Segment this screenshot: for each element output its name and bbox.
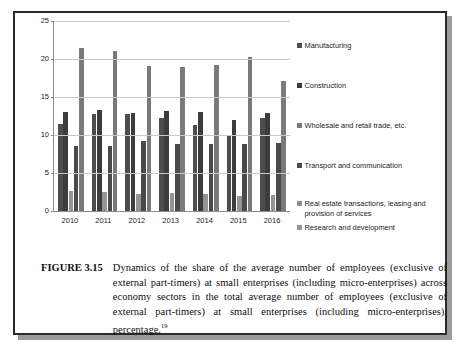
legend-item-6[interactable]: Research and development <box>297 223 433 233</box>
y-tick-mark-0 <box>51 211 54 212</box>
bar <box>92 114 97 211</box>
bar <box>63 112 68 211</box>
x-axis-tick-2010: 2010 <box>62 214 79 230</box>
y-tick-mark-5 <box>51 173 54 174</box>
chart-area: 0510152025 2010201120122013201420152016 … <box>29 21 433 253</box>
gridline-15 <box>54 97 290 98</box>
legend-label: Manufacturing <box>305 41 352 51</box>
legend-swatch-icon <box>297 225 302 230</box>
legend-label: Construction <box>305 81 347 91</box>
y-tick-mark-10 <box>51 135 54 136</box>
legend-swatch-icon <box>297 201 302 206</box>
plot-wrapper: 0510152025 2010201120122013201420152016 <box>29 21 291 253</box>
bar <box>58 124 63 211</box>
bar <box>164 111 169 211</box>
y-tick-mark-15 <box>51 97 54 98</box>
bar <box>193 125 198 211</box>
legend-item-4[interactable]: Transport and communication <box>297 161 433 171</box>
caption-footnote-marker: 19 <box>161 322 168 329</box>
x-axis-tick-2016: 2016 <box>264 214 281 230</box>
bar <box>159 118 164 211</box>
figure-caption-text: Dynamics of the share of the average num… <box>113 261 447 337</box>
y-axis-tick-labels: 0510152025 <box>29 21 51 217</box>
bar <box>198 112 203 211</box>
bar <box>108 146 113 211</box>
bar <box>237 196 242 211</box>
legend-swatch-icon <box>297 163 302 168</box>
bar <box>180 67 185 211</box>
legend-label: Research and development <box>305 223 395 233</box>
figure-page: 0510152025 2010201120122013201420152016 … <box>0 0 462 349</box>
legend-swatch-icon <box>297 83 302 88</box>
bar <box>265 113 270 211</box>
x-axis-tick-2013: 2013 <box>162 214 179 230</box>
bar <box>113 51 118 211</box>
y-axis-tick-25: 25 <box>41 17 49 25</box>
legend-label: Real estate transactions, leasing and pr… <box>305 199 434 218</box>
bar <box>147 66 152 211</box>
y-tick-mark-20 <box>51 59 54 60</box>
legend-item-2[interactable]: Construction <box>297 81 433 91</box>
plot-canvas <box>53 21 290 212</box>
bar <box>214 65 219 211</box>
bar <box>131 113 136 211</box>
y-axis-tick-15: 15 <box>41 93 49 101</box>
legend-swatch-icon <box>297 123 302 128</box>
y-axis-tick-0: 0 <box>45 207 49 215</box>
bar <box>79 48 84 211</box>
legend-label: Transport and communication <box>305 161 403 171</box>
legend-item-3[interactable]: Wholesale and retail trade, etc. <box>297 121 433 131</box>
y-axis-tick-10: 10 <box>41 131 49 139</box>
bar <box>74 146 79 211</box>
figure-number-label: FIGURE 3.15 <box>41 261 103 276</box>
bar-group-2011 <box>92 21 118 211</box>
bar-groups <box>54 21 290 211</box>
x-axis-tick-2011: 2011 <box>95 214 111 230</box>
x-axis-tick-labels: 2010201120122013201420152016 <box>53 214 289 230</box>
legend-item-1[interactable]: Manufacturing <box>297 41 433 51</box>
bar <box>97 110 102 211</box>
chart-legend: ManufacturingConstructionWholesale and r… <box>297 27 433 227</box>
bar <box>242 144 247 211</box>
bar <box>141 141 146 211</box>
bar <box>125 114 130 211</box>
figure-caption: FIGURE 3.15 Dynamics of the share of the… <box>41 261 447 337</box>
bar <box>136 194 141 211</box>
figure-frame: 0510152025 2010201120122013201420152016 … <box>13 11 447 335</box>
bar <box>102 192 107 211</box>
y-axis-tick-5: 5 <box>45 169 49 177</box>
legend-label: Wholesale and retail trade, etc. <box>305 121 407 131</box>
x-axis-tick-2015: 2015 <box>230 214 247 230</box>
bar <box>260 118 265 211</box>
gridline-5 <box>54 173 290 174</box>
y-axis-tick-20: 20 <box>41 55 49 63</box>
bar-group-2014 <box>193 21 219 211</box>
x-axis-tick-2014: 2014 <box>196 214 213 230</box>
y-tick-mark-25 <box>51 21 54 22</box>
bar <box>271 195 276 211</box>
gridline-20 <box>54 59 290 60</box>
bar-group-2016 <box>260 21 286 211</box>
bar-group-2015 <box>227 21 253 211</box>
bar <box>170 193 175 211</box>
bar <box>232 120 237 211</box>
bar <box>203 194 208 211</box>
bar <box>69 191 74 211</box>
bar <box>209 144 214 211</box>
bar <box>175 144 180 211</box>
bar <box>276 143 281 211</box>
bar-group-2010 <box>58 21 84 211</box>
legend-item-5[interactable]: Real estate transactions, leasing and pr… <box>297 199 433 218</box>
bar <box>281 81 286 211</box>
bar-group-2012 <box>125 21 151 211</box>
x-axis-tick-2012: 2012 <box>129 214 146 230</box>
gridline-25 <box>54 21 290 22</box>
gridline-10 <box>54 135 290 136</box>
bar-group-2013 <box>159 21 185 211</box>
legend-swatch-icon <box>297 43 302 48</box>
